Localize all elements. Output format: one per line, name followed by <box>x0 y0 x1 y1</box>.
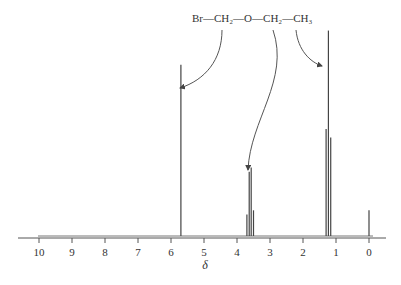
x-tick-label: 9 <box>69 246 75 258</box>
x-tick-label: 7 <box>135 246 141 258</box>
annotation-arrow <box>180 30 222 88</box>
molecule-formula: Br—CH₂—O—CH₂—CH₃ <box>192 12 312 24</box>
x-tick-label: 10 <box>34 246 46 258</box>
x-tick-label: 5 <box>201 246 207 258</box>
x-ticks: 109876543210 <box>34 238 373 258</box>
annotation-arrow <box>248 30 277 170</box>
peaks <box>181 31 369 236</box>
formula-text: Br—CH₂—O—CH₂—CH₃ <box>192 12 312 24</box>
x-tick-label: 3 <box>267 246 273 258</box>
x-tick-label: 1 <box>333 246 339 258</box>
x-tick-label: 6 <box>168 246 174 258</box>
nmr-spectrum: Br—CH₂—O—CH₂—CH₃ 109876543210 δ <box>0 0 401 285</box>
annotation-arrows <box>180 30 322 170</box>
x-axis-label: δ <box>202 258 208 272</box>
x-tick-label: 8 <box>102 246 108 258</box>
x-tick-label: 2 <box>300 246 306 258</box>
annotation-arrow <box>296 30 322 66</box>
x-tick-label: 0 <box>366 246 372 258</box>
x-tick-label: 4 <box>234 246 240 258</box>
